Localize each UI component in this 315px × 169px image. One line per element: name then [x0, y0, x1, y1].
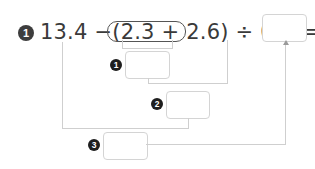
step-3-badge: 3: [88, 139, 100, 151]
step-2-label: 2: [155, 99, 160, 109]
step-3-label: 3: [92, 140, 97, 150]
problem-number-badge: 1: [18, 25, 34, 41]
divisor-down-line: [227, 40, 228, 84]
arrow-up-icon: [283, 40, 289, 45]
step-1-answer-box[interactable]: [125, 51, 170, 79]
bracket-left-line: [122, 40, 123, 48]
inner-expression-oval: [107, 21, 186, 42]
step-3-answer-box[interactable]: [103, 132, 148, 160]
problem-number: 1: [23, 27, 29, 39]
step-2-answer-box[interactable]: [166, 91, 210, 119]
operand-first: 13.4: [40, 20, 88, 44]
divide-sign: ÷: [236, 20, 254, 44]
bracket-bottom-line: [122, 48, 173, 49]
final-up-line: [285, 44, 286, 145]
step-2-badge: 2: [151, 98, 163, 110]
step-2-bracket-line: [148, 83, 228, 84]
step-3-bracket-line: [62, 128, 189, 129]
final-answer-box[interactable]: [262, 14, 307, 42]
step-3-right-line: [146, 144, 286, 145]
step-1-label: 1: [114, 60, 119, 70]
bracket-right-line: [172, 40, 173, 48]
first-operand-down-line: [62, 42, 63, 129]
step-1-badge: 1: [110, 59, 122, 71]
